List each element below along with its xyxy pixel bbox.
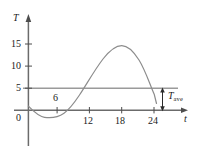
plot-canvas: [0, 0, 202, 149]
y-axis-label: T: [13, 13, 19, 23]
tave-subscript: ave: [174, 95, 183, 102]
tave-symbol: T: [168, 90, 174, 101]
tave-annotation: Tave: [168, 91, 183, 101]
x-tick-label-24: 24: [148, 116, 158, 126]
y-tick-label-10: 10: [2, 61, 21, 71]
temperature-graph-figure: T 15 10 5 0 6 12 18 24 t Tave: [0, 0, 202, 149]
x-tick-label-6: 6: [53, 93, 58, 103]
y-tick-label-15: 15: [2, 39, 21, 49]
x-tick-label-12: 12: [83, 116, 93, 126]
temperature-curve: [28, 46, 156, 118]
x-axis-label: t: [184, 114, 187, 124]
y-tick-label-0: 0: [2, 113, 21, 123]
y-tick-label-5: 5: [2, 83, 21, 93]
x-tick-label-18: 18: [115, 116, 125, 126]
y-axis-arrowhead: [26, 14, 32, 22]
